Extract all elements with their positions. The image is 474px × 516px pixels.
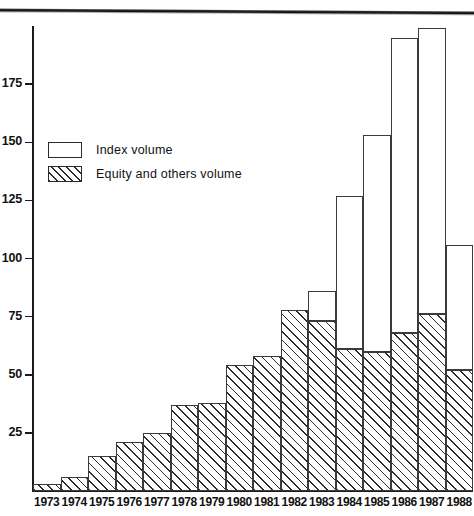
bar-1982 — [281, 310, 309, 491]
bar-segment-index-volume — [391, 38, 419, 333]
y-axis-tick-label: 25 — [0, 425, 22, 439]
legend-item-equity-volume: Equity and others volume — [48, 164, 242, 184]
bar-segment-index-volume — [336, 196, 364, 349]
bar-1988 — [446, 245, 474, 491]
bar-segment-index-volume — [308, 291, 336, 321]
legend-swatch-equity-volume — [48, 166, 82, 182]
y-axis-tick-label: 150 — [0, 134, 22, 148]
bar-1980 — [226, 365, 254, 491]
bar-segment-index-volume — [363, 135, 391, 351]
bar-1981 — [253, 356, 281, 491]
bar-1973 — [33, 484, 61, 491]
bar-1974 — [61, 477, 89, 491]
bar-1979 — [198, 403, 226, 491]
bar-segment-equity-volume — [308, 321, 336, 491]
legend-swatch-index-volume — [48, 142, 82, 158]
x-axis-labels: 1973197419751976197719781979198019811982… — [33, 495, 473, 515]
bar-segment-equity-volume — [226, 365, 254, 491]
bar-segment-equity-volume — [418, 314, 446, 491]
bar-segment-equity-volume — [253, 356, 281, 491]
bar-1987 — [418, 28, 446, 491]
bar-segment-equity-volume — [116, 442, 144, 491]
chart-legend: Index volume Equity and others volume — [48, 140, 242, 188]
bar-1978 — [171, 405, 199, 491]
y-axis-tick-label: 100 — [0, 251, 22, 265]
y-axis-tick-label: 75 — [0, 309, 22, 323]
bar-segment-equity-volume — [446, 370, 474, 491]
y-axis-tick-label: 175 — [0, 76, 22, 90]
x-axis-label-1988: 1988 — [443, 495, 474, 509]
y-axis-tick-label: 50 — [0, 367, 22, 381]
page-top-rule — [0, 8, 474, 16]
bar-segment-equity-volume — [336, 349, 364, 491]
bar-segment-index-volume — [418, 28, 446, 314]
bar-segment-equity-volume — [61, 477, 89, 491]
chart-figure: 255075100125150175 197319741975197619771… — [0, 0, 474, 516]
bar-segment-equity-volume — [281, 310, 309, 491]
y-axis-tick-label: 125 — [0, 192, 22, 206]
bar-1984 — [336, 196, 364, 491]
bar-segment-equity-volume — [391, 333, 419, 491]
bar-segment-index-volume — [446, 245, 474, 371]
plot-area — [33, 26, 473, 491]
legend-item-index-volume: Index volume — [48, 140, 242, 160]
bar-1975 — [88, 456, 116, 491]
bar-segment-equity-volume — [88, 456, 116, 491]
bar-segment-equity-volume — [171, 405, 199, 491]
bar-1985 — [363, 135, 391, 491]
bar-1983 — [308, 291, 336, 491]
legend-label-index-volume: Index volume — [96, 143, 173, 157]
bar-1977 — [143, 433, 171, 491]
bar-1986 — [391, 38, 419, 491]
bar-segment-equity-volume — [143, 433, 171, 491]
bar-segment-equity-volume — [33, 484, 61, 491]
bar-1976 — [116, 442, 144, 491]
bar-segment-equity-volume — [363, 352, 391, 492]
bar-segment-equity-volume — [198, 403, 226, 491]
legend-label-equity-volume: Equity and others volume — [96, 167, 242, 181]
